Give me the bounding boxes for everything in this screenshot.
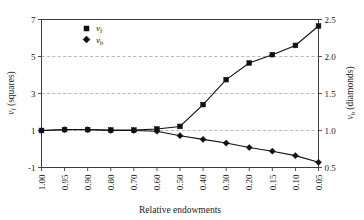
data-point-square xyxy=(201,102,206,107)
gridlines xyxy=(42,57,319,131)
data-point-diamond xyxy=(223,140,229,146)
data-point-square xyxy=(270,52,275,57)
left-axis-title-rest: (squares) xyxy=(6,71,17,108)
x-tick-label: 0.95 xyxy=(60,174,70,190)
x-tick-label: 0.50 xyxy=(175,174,185,190)
data-point-diamond xyxy=(246,144,252,150)
legend-label-vf: vf xyxy=(96,23,103,34)
chart-legend: vf vb xyxy=(83,23,103,46)
legend-vb-sub: b xyxy=(100,39,103,46)
x-tick-label: 0.80 xyxy=(106,174,116,190)
data-point-square xyxy=(178,124,183,129)
left-tick-label: 7 xyxy=(31,15,36,25)
data-point-square xyxy=(316,24,321,29)
x-tick-label: 0.10 xyxy=(291,174,301,190)
right-tick-label: 2.5 xyxy=(325,15,337,25)
left-tick-label: 5 xyxy=(31,52,36,62)
chart-figure: 7531-1 2.52.01.51.00.5 1.000.950.900.800… xyxy=(0,0,364,220)
x-axis-tick-labels: 1.000.950.900.800.700.600.500.400.300.20… xyxy=(37,174,324,190)
right-tick-label: 1.5 xyxy=(325,89,337,99)
legend-label-vb: vb xyxy=(96,35,103,46)
right-tick-label: 1.0 xyxy=(325,126,337,136)
data-point-diamond xyxy=(315,159,321,165)
data-point-square xyxy=(247,61,252,66)
x-tick-label: 0.70 xyxy=(129,174,139,190)
legend-vf-sub: f xyxy=(100,27,103,34)
x-tick-label: 0.60 xyxy=(152,174,162,190)
right-axis-tick-labels: 2.52.01.51.00.5 xyxy=(325,15,337,173)
right-axis-title-rest: (diamonds) xyxy=(345,66,356,112)
left-axis-tick-labels: 7531-1 xyxy=(28,15,36,173)
x-axis-ticks xyxy=(42,168,319,172)
right-tick-label: 2.0 xyxy=(325,52,337,62)
series-v_b xyxy=(38,127,321,166)
right-axis-title: vb (diamonds) xyxy=(345,66,356,119)
x-tick-label: 0.90 xyxy=(83,174,93,190)
left-axis-title: vf (squares) xyxy=(6,71,17,115)
left-axis-ticks xyxy=(38,20,42,168)
left-tick-label: 1 xyxy=(31,126,36,136)
data-point-square xyxy=(224,77,229,82)
x-axis-title: Relative endowments xyxy=(139,205,221,215)
data-series-layer xyxy=(38,24,321,166)
chart-svg: 7531-1 2.52.01.51.00.5 1.000.950.900.800… xyxy=(0,0,364,220)
data-point-diamond xyxy=(200,136,206,142)
left-tick-label: -1 xyxy=(28,163,36,173)
data-point-diamond xyxy=(177,133,183,139)
x-tick-label: 0.30 xyxy=(221,174,231,190)
legend-marker-square xyxy=(84,26,89,31)
x-tick-label: 0.15 xyxy=(268,174,278,190)
series-line xyxy=(42,26,319,131)
data-point-diamond xyxy=(269,148,275,154)
data-point-diamond xyxy=(292,153,298,159)
x-tick-label: 1.00 xyxy=(37,174,47,190)
legend-marker-diamond xyxy=(83,36,90,43)
x-tick-label: 0.05 xyxy=(314,174,324,190)
data-point-square xyxy=(293,43,298,48)
right-tick-label: 0.5 xyxy=(325,163,337,173)
left-tick-label: 3 xyxy=(31,89,36,99)
series-v_f xyxy=(39,24,321,133)
right-axis-ticks xyxy=(319,20,323,168)
x-tick-label: 0.40 xyxy=(198,174,208,190)
x-tick-label: 0.20 xyxy=(244,174,254,190)
plot-frame xyxy=(42,20,319,168)
